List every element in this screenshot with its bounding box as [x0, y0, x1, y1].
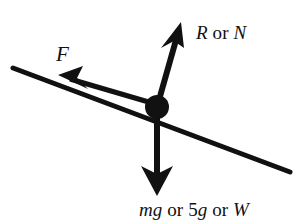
weight-force-conjunction-two: or	[207, 199, 233, 220]
weight-force-symbol-g: g	[198, 199, 208, 220]
normal-force-symbol-r: R	[196, 22, 208, 43]
friction-force-label-text: F	[56, 42, 69, 66]
normal-force-label: R or N	[196, 23, 246, 42]
normal-force-symbol-n: N	[233, 22, 246, 43]
friction-force-arrow	[58, 66, 152, 103]
force-diagram: F R or N mg or 5g or W	[0, 0, 303, 224]
weight-force-symbol-w: W	[233, 199, 249, 220]
normal-force-shaft	[159, 40, 176, 100]
force-diagram-canvas	[0, 0, 303, 224]
friction-force-shaft	[70, 79, 152, 103]
friction-force-label: F	[56, 44, 69, 65]
weight-force-label: mg or 5g or W	[139, 200, 249, 219]
normal-force-arrow	[159, 22, 184, 100]
normal-force-conjunction: or	[208, 22, 234, 43]
inclined-plane-line	[13, 68, 290, 172]
weight-force-conjunction-one: or 5	[162, 199, 197, 220]
weight-force-symbol-mg: mg	[139, 199, 162, 220]
particle-dot	[145, 95, 169, 119]
